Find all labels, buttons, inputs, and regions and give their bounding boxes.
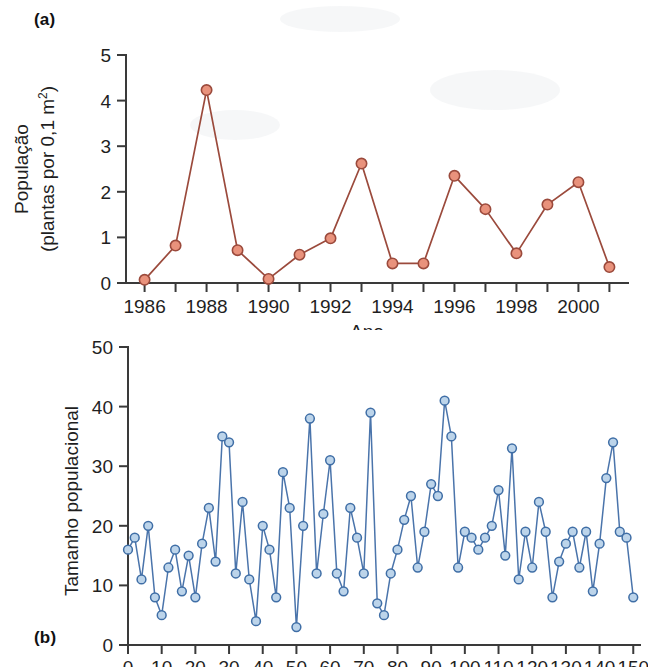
chart-b-data-point bbox=[467, 533, 476, 542]
chart-b-data-point bbox=[420, 527, 429, 536]
chart-b-data-point bbox=[541, 527, 550, 536]
chart-b-x-tick-label: 80 bbox=[387, 657, 408, 667]
chart-b-data-point bbox=[568, 527, 577, 536]
chart-b-y-axis-title: Tamanho populacional bbox=[61, 406, 82, 596]
chart-a-y-tick-label: 1 bbox=[100, 227, 111, 248]
chart-b-data-point bbox=[548, 593, 557, 602]
chart-b-x-tick-label: 10 bbox=[151, 657, 172, 667]
chart-b-data-point bbox=[487, 521, 496, 530]
chart-b-data-point bbox=[555, 557, 564, 566]
chart-b-y-tick-label: 10 bbox=[92, 575, 113, 596]
chart-b-data-point bbox=[373, 599, 382, 608]
chart-b-y-tick-label: 30 bbox=[92, 456, 113, 477]
chart-a-data-point bbox=[263, 274, 273, 284]
chart-a-y-tick-label: 5 bbox=[100, 45, 111, 66]
chart-a-data-point bbox=[294, 250, 304, 260]
chart-a-y-axis-title: População(plantas por 0,1 m2) bbox=[11, 86, 58, 252]
chart-a-data-point bbox=[542, 199, 552, 209]
chart-b-y-tick-label: 0 bbox=[102, 635, 113, 656]
chart-a-data-point bbox=[325, 233, 335, 243]
chart-b-data-point bbox=[353, 533, 362, 542]
chart-b-data-point bbox=[137, 575, 146, 584]
chart-b-data-point bbox=[285, 504, 294, 513]
chart-b-data-point bbox=[164, 563, 173, 572]
chart-b-data-point bbox=[204, 504, 213, 513]
chart-b-data-point bbox=[622, 533, 631, 542]
chart-b-x-tick-label: 110 bbox=[483, 657, 513, 667]
chart-b-data-point bbox=[481, 533, 490, 542]
chart-b-data-point bbox=[177, 587, 186, 596]
chart-b-x-tick-label: 60 bbox=[320, 657, 341, 667]
chart-b-data-point bbox=[400, 515, 409, 524]
chart-b-y-axis-title-text: Tamanho populacional bbox=[61, 406, 82, 596]
chart-b-data-point bbox=[332, 569, 341, 578]
chart-b-x-tick-label: 150 bbox=[617, 657, 648, 667]
chart-b-data-point bbox=[427, 480, 436, 489]
chart-b-data-point bbox=[609, 438, 618, 447]
chart-b-data-point bbox=[413, 563, 422, 572]
chart-b-data-point bbox=[474, 545, 483, 554]
chart-b-axes bbox=[128, 347, 640, 645]
chart-a-data-point bbox=[201, 85, 211, 95]
chart-b-data-point bbox=[366, 408, 375, 417]
chart-b-data-point bbox=[272, 593, 281, 602]
chart-b-series-line bbox=[128, 401, 633, 627]
chart-b-data-point bbox=[279, 468, 288, 477]
chart-b-data-point bbox=[171, 545, 180, 554]
chart-b-x-tick-label: 40 bbox=[252, 657, 273, 667]
chart-b-data-point bbox=[252, 617, 261, 626]
chart-b-data-point bbox=[292, 623, 301, 632]
chart-b-x-tick-label: 0 bbox=[123, 657, 134, 667]
chart-b-data-point bbox=[514, 575, 523, 584]
chart-b-data-point bbox=[258, 521, 267, 530]
chart-a-y-axis-title-line1: População bbox=[11, 124, 32, 214]
chart-b-y-tick-label: 50 bbox=[92, 337, 113, 358]
chart-b-data-point bbox=[454, 563, 463, 572]
chart-b-data-point bbox=[433, 492, 442, 501]
chart-a-data-point bbox=[356, 158, 366, 168]
chart-b-data-point bbox=[393, 545, 402, 554]
chart-b-data-point bbox=[595, 539, 604, 548]
chart-b-data-point bbox=[130, 533, 139, 542]
chart-b-x-tick-label: 70 bbox=[353, 657, 374, 667]
chart-b-data-point bbox=[157, 611, 166, 620]
chart-b-data-point bbox=[602, 474, 611, 483]
chart-b-data-point bbox=[198, 539, 207, 548]
chart-a-data-point bbox=[449, 171, 459, 181]
chart-a-data-point bbox=[511, 248, 521, 258]
chart-b-data-point bbox=[561, 539, 570, 548]
chart-b-plot-area: 0102030405001020304050607080901001101201… bbox=[61, 337, 648, 667]
chart-b-data-point bbox=[528, 563, 537, 572]
chart-b-x-tick-label: 50 bbox=[286, 657, 307, 667]
chart-b-data-point bbox=[265, 545, 274, 554]
chart-a-data-point bbox=[139, 275, 149, 285]
chart-b-data-point bbox=[575, 563, 584, 572]
chart-a-svg: 01234519861988199019921994199619982000An… bbox=[0, 0, 648, 330]
chart-b-data-point bbox=[535, 498, 544, 507]
chart-b-data-point bbox=[386, 569, 395, 578]
figure-container: (a) 012345198619881990199219941996199820… bbox=[0, 0, 648, 667]
chart-a-y-tick-label: 2 bbox=[100, 182, 111, 203]
chart-b-x-tick-label: 130 bbox=[550, 657, 582, 667]
chart-b-data-point bbox=[124, 545, 133, 554]
chart-b-data-point bbox=[225, 438, 234, 447]
panel-a-label: (a) bbox=[34, 10, 55, 30]
chart-a-y-tick-label: 4 bbox=[100, 91, 111, 112]
chart-a-data-point bbox=[573, 177, 583, 187]
chart-b-data-point bbox=[582, 527, 591, 536]
chart-b-data-point bbox=[440, 396, 449, 405]
chart-a-data-point bbox=[387, 258, 397, 268]
chart-a-y-tick-label: 3 bbox=[100, 136, 111, 157]
chart-b-data-point bbox=[151, 593, 160, 602]
chart-b-data-point bbox=[447, 432, 456, 441]
chart-b-data-point bbox=[144, 521, 153, 530]
chart-b-data-point bbox=[346, 504, 355, 513]
chart-b-y-tick-label: 40 bbox=[92, 397, 113, 418]
chart-b-data-point bbox=[508, 444, 517, 453]
chart-b-data-point bbox=[238, 498, 247, 507]
chart-panel-a: (a) 012345198619881990199219941996199820… bbox=[0, 0, 648, 330]
chart-b-data-point bbox=[319, 509, 328, 518]
chart-b-data-point bbox=[245, 575, 254, 584]
chart-b-data-point bbox=[359, 569, 368, 578]
chart-b-data-point bbox=[521, 527, 530, 536]
